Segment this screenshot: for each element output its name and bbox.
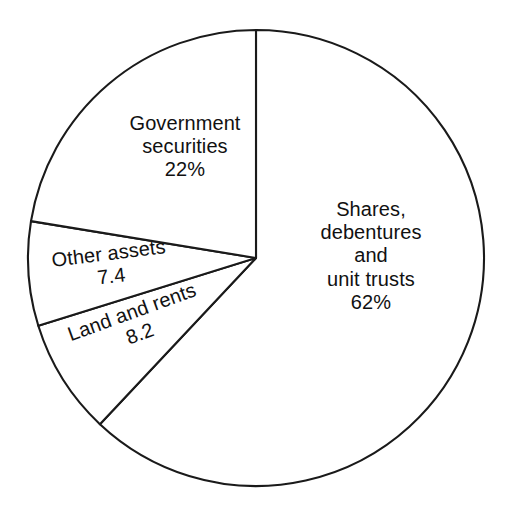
slice-value-label: 62% [300, 291, 442, 314]
slice-label-line: and [300, 244, 442, 267]
slice-label-shares-debentures-unit-trusts: Shares, debentures and unit trusts 62% [300, 198, 442, 314]
slice-label-line: unit trusts [300, 268, 442, 291]
slice-label-line: securities [98, 135, 272, 158]
slice-label-line: Shares, [300, 198, 442, 221]
pie-chart-figure: Government securities 22% Shares, debent… [0, 0, 507, 512]
slice-label-line: Government [98, 112, 272, 135]
slice-label-line: debentures [300, 221, 442, 244]
slice-value-label: 22% [98, 158, 272, 181]
slice-label-government-securities: Government securities 22% [98, 112, 272, 182]
